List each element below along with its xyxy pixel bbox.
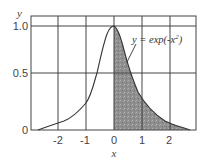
y-axis-label: y — [16, 7, 22, 19]
y-tick-1.0: 1.0 — [13, 20, 28, 32]
x-axis-label: x — [111, 147, 117, 159]
x-tick-neg2: -2 — [53, 134, 63, 146]
y-tick-0.5: 0.5 — [13, 67, 28, 79]
annotation-leader — [127, 44, 136, 62]
x-tick-1: 1 — [139, 134, 145, 146]
chart: y = exp(-x2) y 1.0 0.5 0 -2 -1 0 1 2 x — [0, 0, 209, 164]
y-tick-0: 0 — [22, 124, 28, 136]
x-tick-2: 2 — [166, 134, 172, 146]
x-tick-neg1: -1 — [80, 134, 90, 146]
curve-annotation: y = exp(-x2) — [131, 33, 183, 46]
x-tick-0: 0 — [111, 134, 117, 146]
